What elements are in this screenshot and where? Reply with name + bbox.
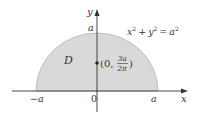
centroid-close: ) bbox=[129, 58, 133, 69]
origin-label: 0 bbox=[91, 93, 97, 104]
centroid-denominator: 2π bbox=[117, 65, 127, 73]
x-tick-neg-a: −a bbox=[30, 93, 44, 104]
y-axis-arrow-icon bbox=[95, 9, 100, 16]
circle-equation: x2+y2=a2 bbox=[127, 25, 179, 37]
y-axis-label: y bbox=[86, 6, 93, 17]
centroid-open: (0, bbox=[100, 58, 113, 69]
y-tick-a: a bbox=[88, 22, 94, 33]
centroid-point bbox=[95, 61, 99, 65]
x-tick-a: a bbox=[151, 93, 157, 104]
semicircle-diagram: y x a −a 0 a x2+y2=a2 D (0, 3a 2π ) bbox=[0, 0, 200, 117]
x-axis-label: x bbox=[181, 93, 187, 104]
region-label: D bbox=[63, 54, 73, 67]
centroid-numerator: 3a bbox=[118, 55, 127, 63]
